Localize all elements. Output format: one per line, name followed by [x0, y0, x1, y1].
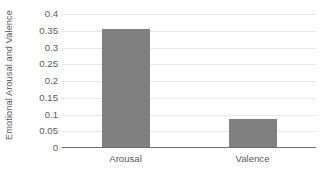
y-tick-label: 0.2 — [16, 76, 58, 86]
x-tick-label: Arousal — [109, 153, 142, 164]
y-tick-label: 0 — [16, 143, 58, 153]
bar-chart: Emotional Arousal and Valence 00.050.10.… — [0, 0, 329, 172]
gridline — [62, 98, 316, 99]
y-tick-label: 0.3 — [16, 43, 58, 53]
gridline — [62, 81, 316, 82]
y-tick-label: 0.1 — [16, 110, 58, 120]
gridline — [62, 64, 316, 65]
y-tick-label: 0.4 — [16, 9, 58, 19]
gridline — [62, 14, 316, 15]
y-tick-label: 0.35 — [16, 26, 58, 36]
gridline — [62, 48, 316, 49]
bar — [229, 119, 277, 148]
gridline — [62, 31, 316, 32]
gridline — [62, 115, 316, 116]
x-axis-tick-labels: ArousalValence — [62, 151, 316, 171]
bar — [102, 29, 150, 148]
plot-area — [62, 14, 316, 148]
y-tick-label: 0.15 — [16, 93, 58, 103]
y-tick-label: 0.05 — [16, 126, 58, 136]
y-tick-label: 0.25 — [16, 59, 58, 69]
y-axis-title-text: Emotional Arousal and Valence — [4, 10, 14, 140]
y-axis-tick-labels: 00.050.10.150.20.250.30.350.4 — [16, 14, 58, 148]
x-tick-label: Valence — [236, 153, 270, 164]
x-axis-line — [62, 147, 316, 148]
gridline — [62, 131, 316, 132]
